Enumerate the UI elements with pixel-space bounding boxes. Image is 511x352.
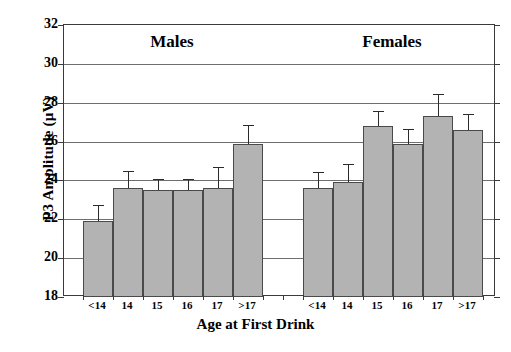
y-axis-tick-mark [58, 103, 64, 104]
x-axis-tick-label: 17 [432, 299, 443, 311]
gridline [64, 103, 494, 104]
error-bar-cap [243, 125, 254, 126]
x-axis-tick-mark [333, 295, 334, 300]
y-axis-tick-label: 28 [32, 94, 58, 110]
x-axis-tick-label: <14 [88, 299, 105, 311]
error-bar [318, 172, 319, 189]
x-axis-tick-mark [303, 295, 304, 300]
x-axis-tick-mark [483, 295, 484, 300]
error-bar [128, 171, 129, 188]
x-axis-tick-mark [203, 295, 204, 300]
bar [453, 130, 483, 297]
x-axis-tick-label: 17 [212, 299, 223, 311]
error-bar-cap [373, 111, 384, 112]
y-axis-tick-mark-right [494, 64, 500, 65]
bar [423, 116, 453, 297]
plot-area [63, 24, 495, 296]
error-bar [378, 111, 379, 126]
y-axis-tick-label: 26 [32, 133, 58, 149]
x-axis-tick-label: 16 [402, 299, 413, 311]
chart-figure: P3 Amplitude (µV) 1820222426283032 Males… [0, 0, 511, 352]
error-bar-cap [123, 171, 134, 172]
y-axis-tick-label: 20 [32, 249, 58, 265]
y-axis-tick-mark-right [494, 258, 500, 259]
error-bar [218, 167, 219, 188]
x-axis-tick-label: 14 [122, 299, 133, 311]
x-axis-tick-mark [173, 295, 174, 300]
error-bar [98, 205, 99, 222]
y-axis-tick-label: 30 [32, 55, 58, 71]
y-axis-tick-mark [58, 258, 64, 259]
y-axis-tick-mark-right [494, 219, 500, 220]
x-axis-tick-mark [263, 295, 264, 300]
y-axis-tick-labels: 1820222426283032 [28, 0, 58, 352]
bar [173, 190, 203, 297]
error-bar-cap [403, 129, 414, 130]
x-axis-tick-label: 14 [342, 299, 353, 311]
error-bar [248, 125, 249, 143]
x-axis-tick-label: >17 [238, 299, 255, 311]
y-axis-tick-mark-right [494, 142, 500, 143]
x-axis-tick-label: 15 [372, 299, 383, 311]
y-axis-tick-mark-right [494, 180, 500, 181]
x-axis-tick-mark [233, 295, 234, 300]
x-axis-tick-mark [453, 295, 454, 300]
group-title-males: Males [150, 32, 193, 52]
y-axis-tick-mark [58, 180, 64, 181]
bar [233, 144, 263, 297]
error-bar-cap [463, 114, 474, 115]
error-bar-cap [93, 205, 104, 206]
x-axis-tick-label: >17 [458, 299, 475, 311]
error-bar-cap [343, 164, 354, 165]
bar [113, 188, 143, 297]
x-axis-tick-mark [363, 295, 364, 300]
gridline [64, 64, 494, 65]
y-axis-tick-label: 22 [32, 210, 58, 226]
bar [393, 144, 423, 297]
y-axis-tick-mark-right [494, 297, 500, 298]
x-axis-tick-mark [83, 295, 84, 300]
error-bar [158, 179, 159, 190]
error-bar [348, 164, 349, 182]
error-bar [188, 179, 189, 190]
x-axis-tick-mark [393, 295, 394, 300]
error-bar-cap [313, 172, 324, 173]
bar [363, 126, 393, 297]
error-bar [408, 129, 409, 144]
x-axis-tick-label: 15 [152, 299, 163, 311]
bar [303, 188, 333, 297]
error-bar [438, 94, 439, 116]
error-bar-cap [433, 94, 444, 95]
x-axis-title: Age at First Drink [0, 316, 511, 333]
x-axis-tick-label: <14 [308, 299, 325, 311]
y-axis-tick-mark [58, 297, 64, 298]
y-axis-tick-mark-right [494, 103, 500, 104]
x-axis-tick-mark [423, 295, 424, 300]
y-axis-tick-mark [58, 219, 64, 220]
error-bar [468, 114, 469, 130]
x-axis-tick-mark [143, 295, 144, 300]
bar [203, 188, 233, 297]
bar [83, 221, 113, 297]
y-axis-tick-label: 18 [32, 288, 58, 304]
y-axis-tick-mark [58, 64, 64, 65]
y-axis-tick-mark-right [494, 25, 500, 26]
bar [143, 190, 173, 297]
bar [333, 182, 363, 297]
x-axis-group-separator-tick [283, 295, 284, 300]
y-axis-tick-mark [58, 25, 64, 26]
y-axis-tick-mark [58, 142, 64, 143]
x-axis-tick-label: 16 [182, 299, 193, 311]
y-axis-tick-label: 24 [32, 171, 58, 187]
figure-caption-sliver [8, 345, 308, 352]
error-bar-cap [153, 179, 164, 180]
x-axis-tick-mark [113, 295, 114, 300]
y-axis-tick-label: 32 [32, 16, 58, 32]
error-bar-cap [183, 179, 194, 180]
error-bar-cap [213, 167, 224, 168]
group-title-females: Females [362, 32, 421, 52]
